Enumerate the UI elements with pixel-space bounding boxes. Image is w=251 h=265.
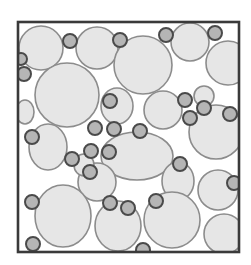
fine-particle [63, 34, 77, 48]
fine-particle [88, 121, 102, 135]
particle-packing-diagram [0, 0, 251, 265]
fine-particle [208, 26, 222, 40]
fine-particle [178, 93, 192, 107]
fine-particle [159, 28, 173, 42]
fine-particle [121, 201, 135, 215]
coarse-aggregate-layer [16, 23, 250, 254]
fine-particle [136, 243, 150, 257]
fine-particle [113, 33, 127, 47]
fine-particle [183, 111, 197, 125]
figure-root [0, 0, 251, 265]
fine-particle [25, 195, 39, 209]
fine-particle [26, 237, 40, 251]
fine-particle [133, 124, 147, 138]
fine-particle [84, 144, 98, 158]
coarse-particle [144, 91, 182, 129]
coarse-particle [76, 27, 118, 69]
fine-particle [197, 101, 211, 115]
coarse-particle [171, 23, 209, 61]
fine-particle [25, 130, 39, 144]
fine-particle [102, 145, 116, 159]
fine-particle [65, 152, 79, 166]
fine-particle [223, 107, 237, 121]
coarse-particle [35, 63, 99, 127]
fine-particle [103, 94, 117, 108]
fine-particle [83, 165, 97, 179]
fine-particle [103, 196, 117, 210]
coarse-particle [206, 41, 250, 85]
coarse-particle [35, 185, 91, 247]
fine-particle [173, 157, 187, 171]
fine-particle [149, 194, 163, 208]
fine-particle [107, 122, 121, 136]
